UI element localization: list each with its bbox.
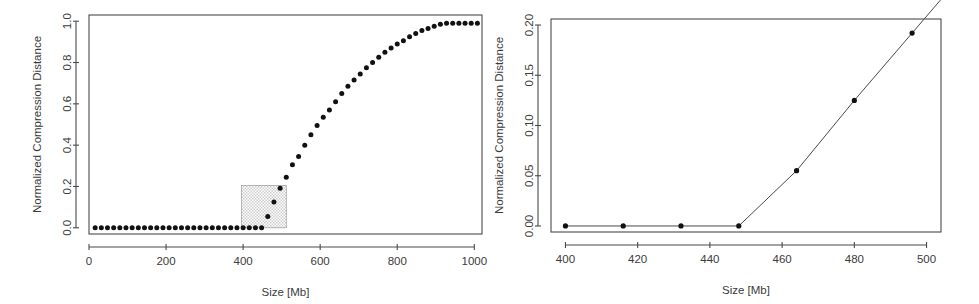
data-point: [432, 24, 437, 29]
data-point: [401, 38, 406, 43]
y-tick-label: 0.4: [61, 137, 73, 154]
data-point: [136, 225, 141, 230]
data-point: [352, 78, 357, 83]
chart-panel-right: 4004204404604805000.000.050.100.150.20Si…: [490, 0, 979, 304]
plot-frame: [551, 19, 941, 232]
x-tick-label: 0: [86, 255, 92, 267]
y-tick-label: 0.15: [523, 64, 535, 86]
x-tick-label: 600: [311, 255, 330, 267]
y-tick-label: 0.10: [523, 114, 535, 136]
data-point: [191, 225, 196, 230]
data-point: [382, 50, 387, 55]
x-tick-label: 200: [156, 255, 175, 267]
x-tick-label: 800: [388, 255, 407, 267]
x-tick-label: 460: [773, 253, 792, 265]
data-point: [259, 225, 264, 230]
x-tick-label: 400: [556, 253, 575, 265]
data-point: [278, 186, 283, 191]
data-point: [253, 225, 258, 230]
data-point: [339, 91, 344, 96]
data-point: [463, 21, 468, 26]
data-point: [216, 225, 221, 230]
x-tick-label: 480: [845, 253, 864, 265]
data-point: [234, 225, 239, 230]
data-point: [376, 55, 381, 60]
data-point: [228, 225, 233, 230]
data-point: [197, 225, 202, 230]
data-point: [419, 28, 424, 33]
y-tick-label: 0.6: [61, 96, 73, 112]
highlight-region: [242, 185, 287, 227]
data-point: [364, 65, 369, 70]
data-point: [99, 225, 104, 230]
data-point: [179, 225, 184, 230]
data-point: [413, 31, 418, 36]
data-point: [395, 41, 400, 46]
data-point: [308, 132, 313, 137]
data-point: [204, 225, 209, 230]
data-point: [105, 225, 110, 230]
data-point: [111, 225, 116, 230]
y-tick-label: 0.0: [61, 220, 73, 236]
data-point: [284, 175, 289, 180]
y-tick-label: 1.0: [61, 13, 73, 29]
data-point: [794, 168, 799, 173]
figure-container: 020040060080010000.00.20.40.60.81.0Size …: [0, 0, 979, 304]
left-scatter-plot: 020040060080010000.00.20.40.60.81.0Size …: [0, 0, 490, 304]
data-point: [469, 21, 474, 26]
x-tick-label: 440: [700, 253, 719, 265]
data-point: [621, 223, 626, 228]
data-point: [333, 99, 338, 104]
data-point: [154, 225, 159, 230]
data-point: [407, 34, 412, 39]
data-point: [265, 214, 270, 219]
x-tick-label: 1000: [461, 255, 487, 267]
data-point: [426, 26, 431, 31]
data-point: [167, 225, 172, 230]
right-line-plot: 4004204404604805000.000.050.100.150.20Si…: [490, 0, 979, 304]
data-point: [910, 30, 915, 35]
y-tick-label: 0.05: [523, 165, 535, 187]
data-point: [678, 223, 683, 228]
y-axis-title: Normalized Compression Distance: [31, 36, 43, 213]
data-point: [389, 46, 394, 51]
data-point: [142, 225, 147, 230]
data-point: [247, 225, 252, 230]
data-point: [185, 225, 190, 230]
x-axis-title: Size [Mb]: [722, 284, 770, 296]
data-point: [444, 21, 449, 26]
data-point: [450, 21, 455, 26]
data-point: [241, 225, 246, 230]
data-point: [296, 154, 301, 159]
data-point: [290, 162, 295, 167]
data-point: [123, 225, 128, 230]
y-tick-label: 0.20: [523, 14, 535, 36]
data-point: [315, 123, 320, 128]
x-tick-label: 500: [917, 253, 936, 265]
data-point: [475, 21, 480, 26]
data-point: [438, 22, 443, 27]
data-point: [148, 225, 153, 230]
y-tick-label: 0.00: [523, 215, 535, 237]
data-point: [302, 143, 307, 148]
data-point: [93, 225, 98, 230]
data-point: [852, 98, 857, 103]
y-axis-title: Normalized Compression Distance: [493, 37, 505, 214]
data-point: [130, 225, 135, 230]
data-point: [321, 115, 326, 120]
data-point: [563, 223, 568, 228]
y-tick-label: 0.2: [61, 178, 73, 194]
data-point: [117, 225, 122, 230]
chart-panel-left: 020040060080010000.00.20.40.60.81.0Size …: [0, 0, 490, 304]
data-line: [565, 0, 946, 226]
data-point: [358, 71, 363, 76]
data-point: [345, 84, 350, 89]
y-tick-label: 0.8: [61, 55, 73, 71]
data-point: [456, 21, 461, 26]
data-point: [160, 225, 165, 230]
data-point: [173, 225, 178, 230]
data-point: [222, 225, 227, 230]
data-point: [210, 225, 215, 230]
data-point: [327, 108, 332, 113]
data-point: [370, 60, 375, 65]
